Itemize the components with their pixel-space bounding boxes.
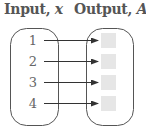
input-value: 1 (29, 33, 37, 48)
mapping-row: 3 (29, 75, 116, 90)
mapping-row: 1 (29, 33, 116, 48)
output-blank-box[interactable] (101, 54, 116, 69)
input-value: 4 (29, 96, 37, 111)
output-blank-box[interactable] (101, 96, 116, 111)
output-blank-box[interactable] (101, 75, 116, 90)
input-value: 3 (29, 75, 37, 90)
mapping-diagram: 1 2 3 4 (0, 0, 146, 131)
input-value: 2 (29, 54, 37, 69)
output-blank-box[interactable] (101, 33, 116, 48)
mapping-row: 2 (29, 54, 116, 69)
mapping-row: 4 (29, 96, 116, 111)
